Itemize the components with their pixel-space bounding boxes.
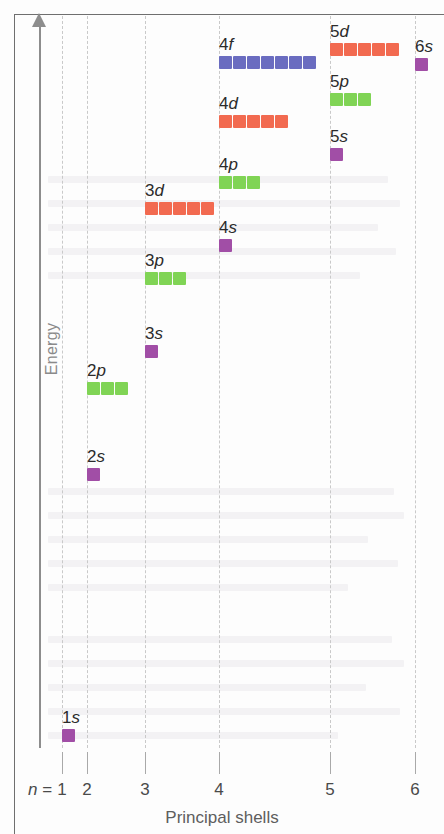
orbital-group-3s: 3s (145, 345, 158, 358)
orbital-boxes-4d (219, 115, 288, 128)
orbital-label-3s: 3s (145, 325, 163, 342)
orbital-box (261, 115, 274, 128)
orbital-boxes-2s (87, 468, 100, 481)
tick-label-2: 2 (82, 780, 91, 800)
orbital-box (87, 382, 100, 395)
tick-label-4: 4 (214, 780, 223, 800)
orbital-box (187, 202, 200, 215)
orbital-box (275, 56, 288, 69)
tick-mark-1 (62, 752, 63, 774)
orbital-group-3p: 3p (145, 272, 186, 285)
orbital-box (145, 272, 158, 285)
orbital-boxes-2p (87, 382, 128, 395)
orbital-box (173, 202, 186, 215)
orbital-label-3d: 3d (145, 182, 164, 199)
tick-label-3: 3 (140, 780, 149, 800)
orbital-box (344, 43, 357, 56)
tick-mark-2 (87, 752, 88, 774)
tick-mark-3 (145, 752, 146, 774)
orbital-group-6s: 6s (415, 58, 428, 71)
orbital-group-5d: 5d (330, 43, 399, 56)
orbital-box (219, 176, 232, 189)
tick-label-1: 1 (57, 780, 66, 800)
gridline-shell-3 (145, 16, 146, 748)
orbital-boxes-4s (219, 239, 232, 252)
orbital-group-2s: 2s (87, 468, 100, 481)
orbital-label-5s: 5s (330, 128, 348, 145)
orbital-box (173, 272, 186, 285)
orbital-box (159, 202, 172, 215)
orbital-box (62, 729, 75, 742)
orbital-boxes-3s (145, 345, 158, 358)
tick-label-5: 5 (325, 780, 334, 800)
orbital-box (330, 43, 343, 56)
orbital-label-4d: 4d (219, 95, 238, 112)
orbital-box (145, 345, 158, 358)
page-frame-left-rule (14, 14, 15, 834)
orbital-label-6s: 6s (415, 38, 433, 55)
orbital-box (275, 115, 288, 128)
orbital-group-5s: 5s (330, 148, 343, 161)
orbital-box (219, 239, 232, 252)
orbital-group-4f: 4f (219, 56, 316, 69)
orbital-boxes-5s (330, 148, 343, 161)
orbital-label-4f: 4f (219, 36, 233, 53)
orbital-label-5p: 5p (330, 73, 349, 90)
energy-axis-line (39, 26, 41, 748)
page-frame-top-rule (14, 14, 444, 15)
tick-mark-6 (415, 752, 416, 774)
orbital-box (372, 43, 385, 56)
gridline-shell-6 (415, 16, 416, 748)
gridline-shell-1 (62, 16, 63, 748)
orbital-boxes-5p (330, 93, 371, 106)
orbital-box (201, 202, 214, 215)
orbital-boxes-6s (415, 58, 428, 71)
y-axis-label: Energy (43, 289, 61, 409)
orbital-box (330, 93, 343, 106)
orbital-box (358, 43, 371, 56)
orbital-group-5p: 5p (330, 93, 371, 106)
orbital-boxes-3p (145, 272, 186, 285)
orbital-box (219, 115, 232, 128)
orbital-label-2s: 2s (87, 448, 105, 465)
gridline-shell-5 (330, 16, 331, 748)
orbital-box (303, 56, 316, 69)
orbital-group-3d: 3d (145, 202, 214, 215)
orbital-box (344, 93, 357, 106)
orbital-box (386, 43, 399, 56)
x-axis-n-prefix: n = (28, 780, 52, 800)
orbital-label-1s: 1s (62, 709, 80, 726)
orbital-box (101, 382, 114, 395)
orbital-label-5d: 5d (330, 23, 349, 40)
orbital-box (289, 56, 302, 69)
orbital-label-3p: 3p (145, 252, 164, 269)
orbital-group-4s: 4s (219, 239, 232, 252)
orbital-box (261, 56, 274, 69)
orbital-boxes-5d (330, 43, 399, 56)
orbital-box (330, 148, 343, 161)
energy-axis-arrow-icon (32, 13, 46, 27)
orbital-boxes-1s (62, 729, 75, 742)
x-axis-label: Principal shells (0, 808, 444, 828)
orbital-box (415, 58, 428, 71)
orbital-group-4p: 4p (219, 176, 260, 189)
orbital-box (358, 93, 371, 106)
orbital-group-4d: 4d (219, 115, 288, 128)
orbital-label-4p: 4p (219, 156, 238, 173)
orbital-box (115, 382, 128, 395)
orbital-box (219, 56, 232, 69)
equals-symbol: = (37, 780, 52, 799)
orbital-box (233, 115, 246, 128)
orbital-boxes-4p (219, 176, 260, 189)
orbital-group-2p: 2p (87, 382, 128, 395)
orbital-box (247, 56, 260, 69)
tick-mark-5 (330, 752, 331, 774)
orbital-label-2p: 2p (87, 362, 106, 379)
orbital-group-1s: 1s (62, 729, 75, 742)
orbital-box (145, 202, 158, 215)
orbital-box (247, 115, 260, 128)
orbital-energy-diagram: Energy 123456 n = Principal shells 1s2s2… (0, 0, 444, 834)
orbital-box (233, 176, 246, 189)
orbital-boxes-3d (145, 202, 214, 215)
orbital-label-4s: 4s (219, 219, 237, 236)
